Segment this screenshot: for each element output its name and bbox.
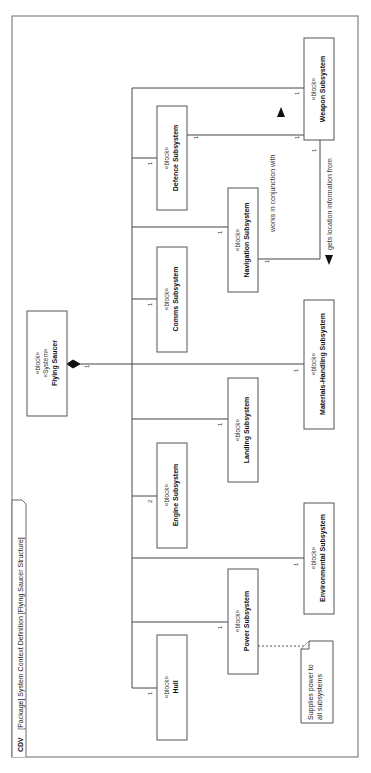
block-flying-saucer[interactable]: «block» «System» Flying Saucer [27, 311, 67, 416]
stereotype-label: «block» [163, 675, 170, 698]
block-name: Hull [172, 680, 179, 693]
block-name: Environmental Subsystem [319, 514, 327, 602]
block-weapon-subsystem[interactable]: «block» Weapon Subsystem [304, 38, 334, 140]
block-name: Comms Subsystem [172, 267, 180, 332]
block-engine-subsystem[interactable]: «block» Engine Subsystem [157, 443, 187, 548]
assoc-label-gets-location: gets location information from [326, 158, 334, 250]
block-name: Landing Subsystem [243, 397, 251, 464]
stereotype-label: «block» [310, 352, 317, 375]
block-definition-diagram: CDV [Package] System Context Definition … [0, 0, 371, 773]
stereotype-label: «System» [42, 348, 50, 377]
note-text-line: Supplies power to [307, 664, 315, 720]
note-text-line: all subsystems [316, 674, 324, 720]
stereotype-label: «block» [234, 418, 241, 441]
block-comms-subsystem[interactable]: «block» Comms Subsystem [157, 247, 187, 352]
block-power-subsystem[interactable]: «block» Power Subsystem [228, 569, 258, 674]
block-name: Defence Subsystem [172, 125, 180, 192]
block-defence-subsystem[interactable]: «block» Defence Subsystem [157, 106, 187, 210]
stereotype-label: «block» [34, 351, 41, 374]
block-name: Materials-Handling Subsystem [319, 313, 327, 415]
block-materials-handling-subsystem[interactable]: «block» Materials-Handling Subsystem [304, 300, 334, 429]
block-name: Flying Saucer [51, 340, 59, 386]
block-hull[interactable]: «block» Hull [157, 635, 187, 740]
stereotype-label: «block» [310, 546, 317, 569]
stereotype-label: «block» [234, 609, 241, 632]
block-environmental-subsystem[interactable]: «block» Environmental Subsystem [304, 503, 334, 614]
stereotype-label: «block» [163, 287, 170, 310]
block-name: Engine Subsystem [172, 464, 180, 527]
stereotype-label: «block» [234, 228, 241, 251]
stereotype-label: «block» [163, 146, 170, 169]
assoc-label-works-with: works in conjunction with [269, 154, 277, 233]
block-name: Weapon Subsystem [319, 56, 327, 122]
stereotype-label: «block» [163, 483, 170, 506]
block-name: Power Subsystem [243, 591, 251, 651]
block-name: Navigation Subsystem [243, 202, 251, 277]
note-supplies-power[interactable]: Supplies power to all subsystems [301, 641, 333, 723]
block-landing-subsystem[interactable]: «block» Landing Subsystem [228, 378, 258, 482]
stereotype-label: «block» [310, 77, 317, 100]
block-navigation-subsystem[interactable]: «block» Navigation Subsystem [228, 188, 258, 292]
